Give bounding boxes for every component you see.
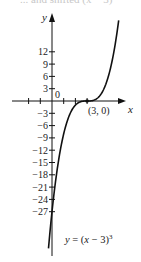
x-axis-arrow-icon	[118, 98, 126, 104]
y-tick-label: −9	[37, 132, 48, 143]
axes	[12, 13, 126, 256]
y-tick-label: 6	[43, 71, 48, 82]
cubic-curve	[48, 20, 118, 248]
x-intercept-point	[85, 99, 89, 103]
y-tick-label: −6	[37, 120, 48, 131]
y-axis-label: y	[41, 11, 47, 23]
equation-label: y = (x − 3)3	[64, 233, 113, 246]
x-axis-label: x	[127, 103, 133, 115]
y-tick-label: −24	[32, 194, 48, 205]
y-tick-label: −18	[32, 169, 48, 180]
y-tick-label: −21	[32, 182, 48, 193]
y-tick-label: −27	[32, 206, 48, 217]
y-tick-label: −3	[37, 108, 48, 119]
y-tick-label: 9	[43, 59, 48, 70]
point-label: (3, 0)	[88, 105, 110, 117]
y-tick-label: 12	[38, 46, 48, 57]
origin-label: 0	[55, 89, 60, 100]
y-tick-label: 3	[43, 83, 48, 94]
y-tick-label: −15	[32, 157, 48, 168]
cubic-function-graph: 12963−3−6−9−12−15−18−21−24−27 x y 0 (3, …	[0, 0, 141, 262]
y-tick-label: −12	[32, 145, 48, 156]
y-axis-arrow-icon	[49, 13, 55, 22]
